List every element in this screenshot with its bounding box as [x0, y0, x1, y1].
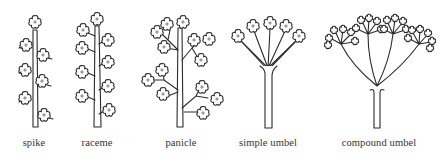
simple-umbel-drawing	[232, 17, 305, 128]
panicle-drawing	[142, 16, 223, 127]
raceme-drawing	[76, 13, 115, 127]
label-compound-umbel: compound umbel	[342, 137, 417, 148]
label-raceme: raceme	[82, 137, 113, 148]
compound-umbel-drawing	[324, 14, 435, 128]
spike-drawing	[19, 16, 53, 127]
label-simple-umbel: simple umbel	[239, 137, 297, 148]
label-panicle: panicle	[165, 137, 196, 148]
label-spike: spike	[23, 137, 46, 148]
